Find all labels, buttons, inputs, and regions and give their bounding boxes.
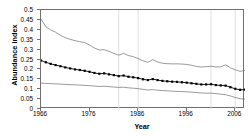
x-tick-label: 1986 bbox=[122, 110, 152, 117]
y-tick-label: 0.3 bbox=[11, 45, 33, 52]
data-point-marker bbox=[69, 67, 71, 69]
data-point-marker bbox=[190, 82, 192, 84]
x-tick-label: 1966 bbox=[25, 110, 55, 117]
y-tick-label: 0.5 bbox=[11, 6, 33, 13]
data-point-marker bbox=[45, 61, 47, 63]
data-point-marker bbox=[220, 84, 222, 86]
data-point-marker bbox=[205, 83, 207, 85]
data-point-marker bbox=[186, 82, 188, 84]
series-line bbox=[41, 60, 245, 89]
data-point-marker bbox=[88, 71, 90, 73]
data-point-marker bbox=[147, 79, 149, 81]
data-point-marker bbox=[50, 63, 52, 65]
data-point-marker bbox=[239, 89, 241, 91]
y-tick-label: 0.45 bbox=[11, 15, 33, 22]
series-line bbox=[41, 19, 245, 71]
y-tick-label: 0.1 bbox=[11, 85, 33, 92]
y-tick-label: 0.15 bbox=[11, 75, 33, 82]
data-point-marker bbox=[137, 77, 139, 79]
data-point-marker bbox=[166, 80, 168, 82]
data-point-marker bbox=[215, 84, 217, 86]
data-point-marker bbox=[224, 85, 226, 87]
y-tick-label: 0.25 bbox=[11, 55, 33, 62]
data-point-marker bbox=[171, 81, 173, 83]
data-point-marker bbox=[93, 72, 95, 74]
data-point-marker bbox=[74, 68, 76, 70]
data-point-marker bbox=[181, 81, 183, 83]
data-point-marker bbox=[127, 76, 129, 78]
data-point-marker bbox=[161, 80, 163, 82]
data-point-marker bbox=[59, 65, 61, 67]
data-point-marker bbox=[152, 78, 154, 80]
data-point-marker bbox=[122, 74, 124, 76]
data-point-marker bbox=[142, 78, 144, 80]
data-point-marker bbox=[234, 88, 236, 90]
data-point-marker bbox=[210, 83, 212, 85]
plot-area bbox=[40, 9, 244, 108]
data-point-marker bbox=[103, 72, 105, 74]
y-tick-label: 0.2 bbox=[11, 65, 33, 72]
y-tick-label: 0.35 bbox=[11, 35, 33, 42]
data-point-marker bbox=[98, 73, 100, 75]
data-point-marker bbox=[156, 79, 158, 81]
plot-svg bbox=[41, 10, 245, 109]
series-line bbox=[41, 83, 245, 99]
data-point-marker bbox=[108, 73, 110, 75]
data-point-marker bbox=[195, 83, 197, 85]
data-point-marker bbox=[229, 86, 231, 88]
abundance-index-chart: Abundance index 00.050.10.150.20.250.30.… bbox=[0, 0, 249, 136]
y-tick-label: 0.4 bbox=[11, 25, 33, 32]
data-point-marker bbox=[118, 75, 120, 77]
data-point-marker bbox=[176, 81, 178, 83]
y-tick-label: 0.05 bbox=[11, 95, 33, 102]
data-point-marker bbox=[54, 64, 56, 66]
data-point-marker bbox=[113, 74, 115, 76]
data-point-marker bbox=[132, 76, 134, 78]
data-point-marker bbox=[200, 83, 202, 85]
data-point-marker bbox=[79, 69, 81, 71]
data-point-marker bbox=[84, 70, 86, 72]
data-point-marker bbox=[244, 89, 245, 91]
x-tick-label: 1996 bbox=[171, 110, 201, 117]
x-tick-label: 1976 bbox=[74, 110, 104, 117]
data-point-marker bbox=[41, 59, 42, 61]
data-point-marker bbox=[64, 66, 66, 68]
x-tick-label: 2006 bbox=[219, 110, 249, 117]
x-axis-title: Year bbox=[40, 122, 244, 131]
